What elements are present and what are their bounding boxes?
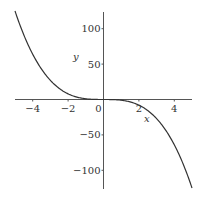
x-tick-label: 0 bbox=[95, 103, 101, 114]
x-axis-label: x bbox=[144, 113, 150, 124]
x-tick-labels: −4−2024 bbox=[25, 100, 177, 114]
y-axis-label: y bbox=[72, 51, 79, 62]
y-tick-label: −100 bbox=[73, 165, 100, 176]
y-tick-label: −50 bbox=[79, 129, 100, 140]
function-plot: −4−2024 10050−50−100 y x bbox=[0, 0, 202, 201]
x-tick-label: −4 bbox=[25, 103, 40, 114]
x-tick-label: −2 bbox=[61, 103, 76, 114]
y-tick-label: 100 bbox=[81, 23, 100, 34]
x-tick-label: 4 bbox=[171, 103, 177, 114]
y-tick-label: 50 bbox=[88, 59, 101, 70]
